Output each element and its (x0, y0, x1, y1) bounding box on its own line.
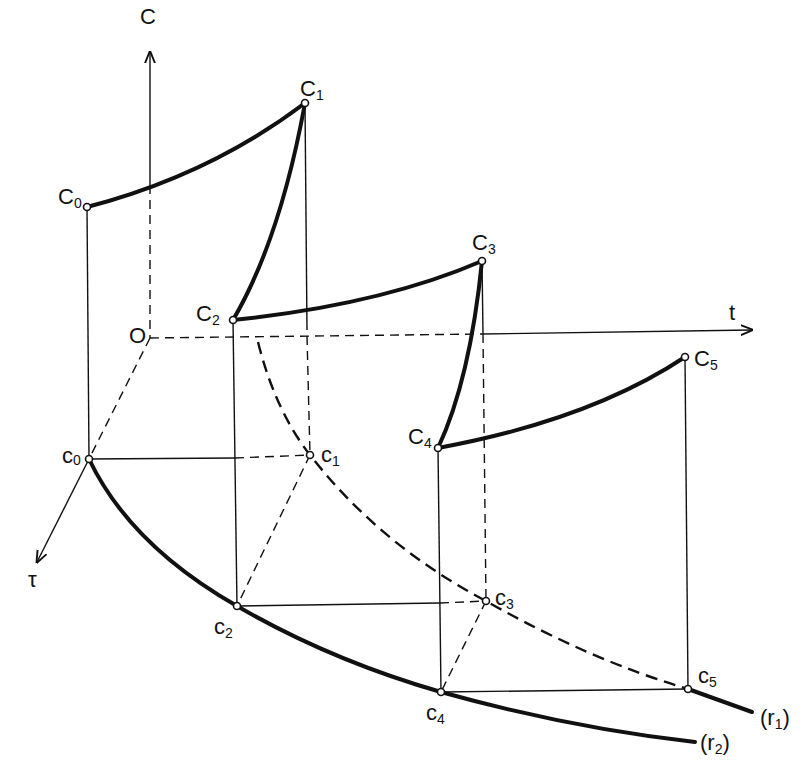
diagram-canvas: C t τ O (0, 0, 800, 780)
point-C3 (479, 258, 486, 265)
origin-label: O (129, 323, 146, 348)
point-c4 (438, 689, 445, 696)
label-C3: C3 (472, 230, 496, 257)
c-axis-label: C (140, 4, 156, 29)
upper-points (84, 100, 689, 452)
point-c5 (685, 686, 692, 693)
label-C2: C2 (196, 301, 220, 328)
label-c3: c3 (495, 585, 514, 612)
t-axis-hidden (150, 334, 482, 338)
label-r1: (r1) (760, 705, 790, 732)
r2-curve (89, 459, 695, 742)
label-C1: C1 (300, 76, 324, 103)
lower-labels: c0 c1 c2 c3 c4 c5 (62, 442, 717, 727)
tau-axis-hidden (89, 338, 150, 459)
point-C2 (230, 317, 237, 324)
point-c1 (307, 452, 314, 459)
label-C5: C5 (694, 346, 718, 373)
point-c0 (86, 456, 93, 463)
point-C0 (84, 204, 91, 211)
label-r2: (r2) (700, 730, 730, 757)
label-c0: c0 (62, 443, 81, 468)
label-c4: c4 (426, 700, 445, 727)
axes (37, 52, 752, 562)
point-c2 (234, 603, 241, 610)
t-axis-arrow (482, 330, 752, 334)
label-C4: C4 (408, 424, 432, 451)
label-c5: c5 (698, 663, 717, 690)
upper-curve (87, 103, 685, 448)
concentration-diagram: C t τ O (0, 0, 800, 780)
point-c3 (483, 598, 490, 605)
label-c1: c1 (321, 442, 340, 469)
t-axis-label: t (729, 300, 735, 325)
r1-curve (258, 342, 752, 712)
label-C0: C0 (58, 184, 82, 211)
tau-axis-arrow (37, 459, 89, 562)
tau-axis-label: τ (28, 567, 37, 592)
point-C5 (682, 354, 689, 361)
point-C4 (435, 445, 442, 452)
label-c2: c2 (214, 614, 233, 641)
